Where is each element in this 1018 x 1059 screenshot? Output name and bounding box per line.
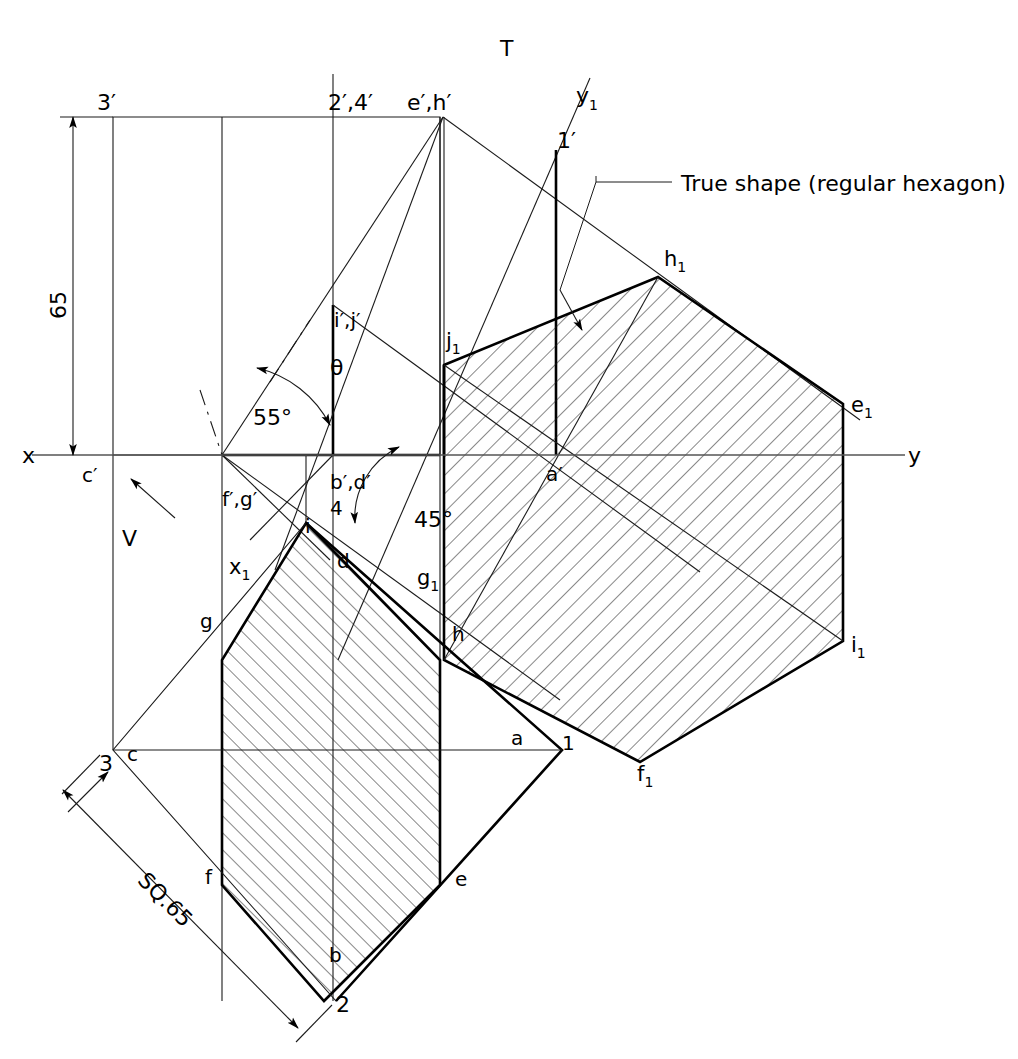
top-view-label-10: b — [329, 943, 342, 967]
front-view-label-3: 1′ — [557, 128, 576, 153]
top-view-label-8: e — [455, 867, 467, 891]
axis-label-x: x — [22, 443, 35, 468]
axis-label-T: T — [499, 36, 514, 61]
top-view-label-9: f — [205, 865, 213, 889]
front-view-label-6: f′,g′ — [222, 487, 258, 511]
top-view-label-7: 3 — [99, 751, 113, 776]
front-view-label-9: a′ — [546, 462, 563, 486]
front-view-label-5: c′ — [82, 463, 98, 487]
angle-45-label: 45° — [414, 507, 453, 532]
angle-theta-label: θ — [330, 355, 343, 380]
v-plane-label: V — [122, 526, 137, 551]
front-view-label-4: i′,j′ — [334, 308, 361, 332]
front-view-label-1: 2′,4′ — [328, 90, 373, 115]
top-view-label-11: 2 — [336, 992, 350, 1017]
front-view-label-8: 4 — [330, 496, 343, 520]
true-shape-callout-label: True shape (regular hexagon) — [680, 171, 1006, 196]
axis-label-y1-sub: 1 — [589, 97, 598, 113]
front-view-label-2: e′,h′ — [407, 90, 451, 115]
top-view-label-2: g — [200, 609, 213, 633]
dimension-65-label: 65 — [46, 291, 71, 319]
engineering-drawing-canvas: 65 SQ.65 55° θ 45° V True shape (regular… — [0, 0, 1018, 1059]
top-view-label-6: c — [127, 742, 138, 766]
top-view-label-5: 1 — [562, 731, 575, 755]
top-view-label-1: d — [337, 549, 350, 573]
front-view-label-7: b′,d′ — [330, 470, 371, 494]
axis-label-y1-base: y — [576, 83, 589, 108]
drawing-svg: 65 SQ.65 55° θ 45° V True shape (regular… — [0, 0, 1018, 1059]
angle-55-label: 55° — [253, 405, 292, 430]
axis-label-y: y — [908, 443, 921, 468]
front-view-label-0: 3′ — [97, 90, 116, 115]
top-view-label-4: a — [511, 726, 523, 750]
top-view-label-3: h — [452, 622, 465, 646]
top-view-label-0: i — [305, 514, 311, 538]
